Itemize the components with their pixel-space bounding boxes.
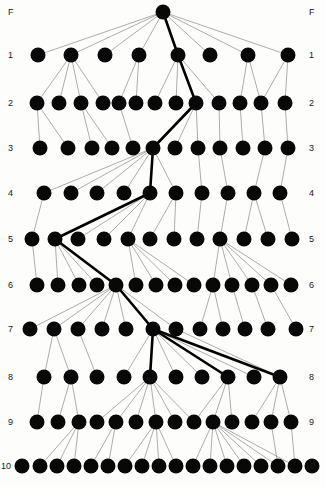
tree-node[interactable] bbox=[101, 459, 116, 474]
tree-node[interactable] bbox=[169, 96, 184, 111]
tree-node[interactable] bbox=[258, 141, 273, 156]
tree-node[interactable] bbox=[213, 141, 228, 156]
tree-node[interactable] bbox=[189, 96, 204, 111]
tree-node[interactable] bbox=[52, 96, 67, 111]
tree-node[interactable] bbox=[30, 278, 45, 293]
tree-node[interactable] bbox=[261, 232, 276, 247]
tree-node[interactable] bbox=[148, 96, 163, 111]
tree-node[interactable] bbox=[33, 141, 48, 156]
tree-node[interactable] bbox=[117, 186, 132, 201]
tree-node[interactable] bbox=[109, 415, 124, 430]
tree-node[interactable] bbox=[171, 48, 186, 63]
tree-node[interactable] bbox=[143, 370, 158, 385]
tree-node[interactable] bbox=[245, 278, 260, 293]
tree-node[interactable] bbox=[233, 96, 248, 111]
tree-node[interactable] bbox=[264, 415, 279, 430]
tree-node[interactable] bbox=[121, 232, 136, 247]
tree-node[interactable] bbox=[71, 322, 86, 337]
tree-node[interactable] bbox=[271, 459, 286, 474]
tree-node[interactable] bbox=[237, 459, 252, 474]
tree-node[interactable] bbox=[225, 415, 240, 430]
tree-node[interactable] bbox=[247, 370, 262, 385]
tree-node[interactable] bbox=[167, 232, 182, 247]
tree-node[interactable] bbox=[117, 370, 132, 385]
tree-node[interactable] bbox=[72, 278, 87, 293]
tree-node[interactable] bbox=[129, 96, 144, 111]
tree-node[interactable] bbox=[143, 186, 158, 201]
tree-node[interactable] bbox=[90, 370, 105, 385]
tree-node[interactable] bbox=[132, 48, 147, 63]
tree-node[interactable] bbox=[129, 415, 144, 430]
tree-node[interactable] bbox=[96, 96, 111, 111]
tree-node[interactable] bbox=[97, 232, 112, 247]
tree-node[interactable] bbox=[105, 141, 120, 156]
tree-node[interactable] bbox=[146, 141, 161, 156]
tree-node[interactable] bbox=[47, 322, 62, 337]
tree-node[interactable] bbox=[195, 186, 210, 201]
tree-node[interactable] bbox=[288, 459, 303, 474]
tree-node[interactable] bbox=[126, 141, 141, 156]
tree-node[interactable] bbox=[143, 232, 158, 247]
tree-node[interactable] bbox=[245, 415, 260, 430]
tree-node[interactable] bbox=[254, 459, 269, 474]
tree-node[interactable] bbox=[149, 278, 164, 293]
tree-node[interactable] bbox=[289, 322, 304, 337]
tree-node[interactable] bbox=[129, 278, 144, 293]
tree-node[interactable] bbox=[61, 141, 76, 156]
tree-node[interactable] bbox=[220, 459, 235, 474]
tree-node[interactable] bbox=[15, 459, 30, 474]
tree-node[interactable] bbox=[206, 415, 221, 430]
tree-node[interactable] bbox=[152, 459, 167, 474]
tree-node[interactable] bbox=[236, 141, 251, 156]
tree-node[interactable] bbox=[191, 141, 206, 156]
tree-node[interactable] bbox=[273, 370, 288, 385]
tree-node[interactable] bbox=[203, 459, 218, 474]
tree-node[interactable] bbox=[187, 415, 202, 430]
tree-node[interactable] bbox=[112, 96, 127, 111]
tree-node[interactable] bbox=[281, 141, 296, 156]
tree-node[interactable] bbox=[221, 186, 236, 201]
tree-node[interactable] bbox=[264, 278, 279, 293]
tree-node[interactable] bbox=[206, 278, 221, 293]
tree-node[interactable] bbox=[169, 186, 184, 201]
tree-node[interactable] bbox=[146, 322, 161, 337]
tree-node[interactable] bbox=[64, 48, 79, 63]
tree-node[interactable] bbox=[169, 459, 184, 474]
tree-node[interactable] bbox=[168, 415, 183, 430]
tree-node[interactable] bbox=[254, 96, 269, 111]
tree-node[interactable] bbox=[30, 415, 45, 430]
tree-node[interactable] bbox=[30, 96, 45, 111]
tree-node[interactable] bbox=[169, 322, 184, 337]
tree-node[interactable] bbox=[85, 141, 100, 156]
tree-node[interactable] bbox=[190, 232, 205, 247]
tree-node[interactable] bbox=[213, 232, 228, 247]
tree-node[interactable] bbox=[37, 186, 52, 201]
tree-node[interactable] bbox=[25, 232, 40, 247]
tree-node[interactable] bbox=[261, 322, 276, 337]
tree-node[interactable] bbox=[238, 322, 253, 337]
tree-node[interactable] bbox=[156, 5, 171, 20]
tree-node[interactable] bbox=[149, 415, 164, 430]
tree-node[interactable] bbox=[186, 459, 201, 474]
tree-node[interactable] bbox=[51, 415, 66, 430]
tree-node[interactable] bbox=[109, 278, 124, 293]
tree-node[interactable] bbox=[135, 459, 150, 474]
tree-node[interactable] bbox=[187, 278, 202, 293]
tree-node[interactable] bbox=[71, 232, 86, 247]
tree-node[interactable] bbox=[237, 232, 252, 247]
tree-node[interactable] bbox=[118, 459, 133, 474]
tree-node[interactable] bbox=[225, 278, 240, 293]
tree-node[interactable] bbox=[98, 48, 113, 63]
tree-node[interactable] bbox=[169, 370, 184, 385]
tree-node[interactable] bbox=[95, 322, 110, 337]
tree-node[interactable] bbox=[285, 232, 300, 247]
tree-node[interactable] bbox=[23, 322, 38, 337]
tree-node[interactable] bbox=[221, 370, 236, 385]
tree-node[interactable] bbox=[50, 459, 65, 474]
tree-node[interactable] bbox=[284, 278, 299, 293]
tree-node[interactable] bbox=[216, 322, 231, 337]
tree-node[interactable] bbox=[90, 278, 105, 293]
tree-node[interactable] bbox=[90, 186, 105, 201]
tree-node[interactable] bbox=[72, 415, 87, 430]
tree-node[interactable] bbox=[64, 370, 79, 385]
